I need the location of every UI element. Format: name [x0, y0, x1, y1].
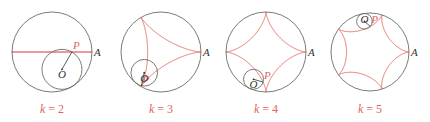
hypocycloid-curve	[141, 17, 201, 86]
label-P: P	[72, 39, 80, 51]
label-P: P	[263, 69, 271, 81]
caption-k: k = 2	[40, 102, 64, 116]
label-O: O	[250, 78, 258, 90]
hypocycloid-figure: APOk = 2APOk = 3APOk = 4APOk = 5	[0, 0, 430, 122]
caption-k: k = 4	[254, 102, 278, 116]
fixed-circle	[331, 13, 409, 91]
panel-k-5: APOk = 5	[331, 13, 418, 116]
caption-k: k = 5	[358, 102, 382, 116]
label-P: P	[370, 13, 378, 25]
label-A: A	[93, 46, 101, 58]
label-O: O	[58, 68, 66, 80]
panel-k-3: APOk = 3	[121, 12, 210, 116]
label-A: A	[307, 46, 315, 58]
caption-k: k = 3	[149, 102, 173, 116]
label-A: A	[202, 46, 210, 58]
panel-k-4: APOk = 4	[226, 12, 315, 116]
hypocycloid-curve	[338, 15, 409, 89]
label-O: O	[360, 13, 368, 25]
panel-k-2: APOk = 2	[12, 12, 101, 116]
label-A: A	[410, 46, 418, 58]
label-O: O	[140, 72, 148, 84]
radius-segment	[62, 52, 72, 69]
